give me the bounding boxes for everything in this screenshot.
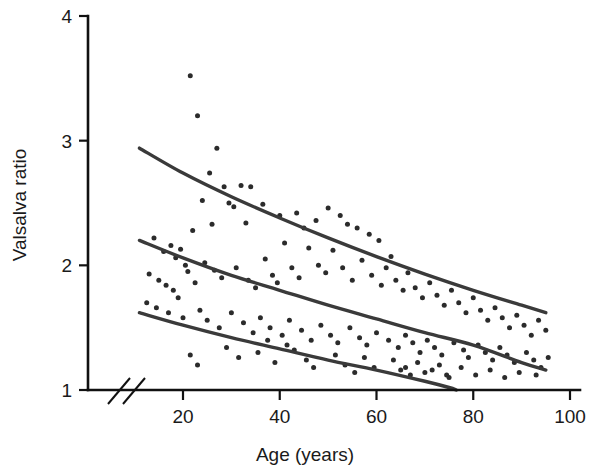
scatter-point [369, 273, 374, 278]
x-axis-tick-labels: 20406080100 [172, 406, 585, 427]
scatter-point [151, 235, 156, 240]
scatter-point [517, 370, 522, 375]
scatter-point [154, 305, 159, 310]
y-axis-tick-labels: 1234 [61, 6, 72, 401]
scatter-point [367, 232, 372, 237]
scatter-point [190, 228, 195, 233]
scatter-point [403, 333, 408, 338]
scatter-point [251, 330, 256, 335]
scatter-point [500, 315, 505, 320]
scatter-point [386, 338, 391, 343]
scatter-point [229, 310, 234, 315]
scatter-point [222, 184, 227, 189]
curve-lower-reference-limit [139, 313, 456, 390]
scatter-point [239, 183, 244, 188]
scatter-point [355, 225, 360, 230]
scatter-point [352, 370, 357, 375]
x-tick-label-20: 20 [172, 406, 193, 427]
scatter-point [531, 358, 536, 363]
scatter-point [304, 358, 309, 363]
scatter-point [294, 210, 299, 215]
scatter-point [164, 283, 169, 288]
scatter-point [522, 323, 527, 328]
scatter-point [396, 345, 401, 350]
scatter-point [270, 273, 275, 278]
scatter-point [427, 280, 432, 285]
y-tick-label-1: 1 [61, 380, 72, 401]
scatter-point [422, 370, 427, 375]
scatter-point [389, 254, 394, 259]
scatter-point [432, 345, 437, 350]
scatter-point [393, 278, 398, 283]
scatter-point [442, 303, 447, 308]
scatter-point [374, 330, 379, 335]
x-tick-label-60: 60 [366, 406, 387, 427]
scatter-point [410, 340, 415, 345]
x-axis-ticks [183, 390, 570, 400]
valsalva-ratio-scatter-figure: 1234 20406080100 Age (years) Valsalva ra… [0, 0, 594, 469]
scatter-point [546, 355, 551, 360]
scatter-point [311, 365, 316, 370]
scatter-point [231, 204, 236, 209]
scatter-point [195, 113, 200, 118]
scatter-point [405, 270, 410, 275]
scatter-point [338, 213, 343, 218]
x-tick-label-100: 100 [554, 406, 586, 427]
scatter-point [316, 263, 321, 268]
axis-label-layer: 1234 20406080100 Age (years) Valsalva ra… [9, 6, 586, 465]
scatter-point [543, 328, 548, 333]
scatter-point [282, 240, 287, 245]
scatter-point [485, 318, 490, 323]
scatter-point [350, 278, 355, 283]
scatter-point [459, 365, 464, 370]
scatter-point [197, 308, 202, 313]
scatter-point [236, 355, 241, 360]
scatter-point [403, 365, 408, 370]
scatter-point [185, 269, 190, 274]
scatter-point [188, 353, 193, 358]
scatter-point [398, 368, 403, 373]
scatter-point [144, 300, 149, 305]
scatter-point [306, 245, 311, 250]
scatter-point [447, 375, 452, 380]
scatter-point [318, 323, 323, 328]
scatter-point [219, 275, 224, 280]
scatter-point [226, 201, 231, 206]
scatter-point [285, 343, 290, 348]
scatter-point [490, 358, 495, 363]
scatter-point [418, 350, 423, 355]
scatter-point [205, 318, 210, 323]
curve-upper-reference-limit [139, 148, 545, 313]
scatter-point [188, 73, 193, 78]
scatter-point [439, 353, 444, 358]
scatter-point [171, 288, 176, 293]
scatter-point [330, 248, 335, 253]
scatter-point [200, 198, 205, 203]
scatter-point [323, 270, 328, 275]
scatter-point [536, 318, 541, 323]
scatter-point [297, 275, 302, 280]
scatter-point [272, 360, 277, 365]
scatter-point [314, 218, 319, 223]
scatter-point [359, 258, 364, 263]
scatter-point [437, 363, 442, 368]
scatter-point [493, 305, 498, 310]
scatter-point [379, 283, 384, 288]
scatter-point [384, 265, 389, 270]
scatter-point [253, 285, 258, 290]
scatter-point [478, 308, 483, 313]
scatter-point [309, 338, 314, 343]
scatter-point [335, 340, 340, 345]
scatter-point [529, 333, 534, 338]
scatter-point [449, 288, 454, 293]
scatter-point [434, 293, 439, 298]
scatter-point [224, 345, 229, 350]
x-tick-label-40: 40 [269, 406, 290, 427]
scatter-point [514, 313, 519, 318]
scatter-point [473, 373, 478, 378]
scatter-point [214, 146, 219, 151]
scatter-point [425, 338, 430, 343]
scatter-point [258, 315, 263, 320]
scatter-point [241, 320, 246, 325]
scatter-point [463, 310, 468, 315]
